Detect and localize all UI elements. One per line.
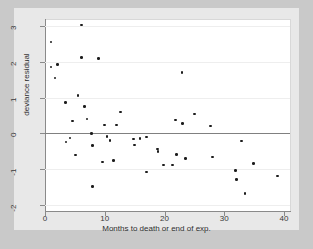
scatter-point	[235, 178, 238, 181]
scatter-point	[162, 164, 165, 167]
scatter-point	[132, 138, 135, 141]
scatter-point	[119, 111, 122, 114]
scatter-point	[175, 153, 178, 156]
scatter-plot-figure: 3210-1-2 010203040 deviance residual Mon…	[14, 8, 299, 230]
x-tick-label: 20	[155, 214, 175, 223]
y-axis-tick	[40, 98, 45, 99]
plot-area	[45, 19, 291, 211]
scatter-point	[145, 171, 148, 174]
x-axis-title: Months to death or end of exp.	[14, 224, 299, 233]
gridline	[45, 169, 290, 170]
y-tick-label: 3	[9, 26, 18, 42]
scatter-point	[64, 101, 67, 104]
scatter-point	[174, 119, 177, 122]
scatter-point	[234, 169, 237, 172]
scatter-point	[181, 122, 184, 125]
y-tick-label: 2	[9, 61, 18, 77]
scatter-point	[193, 113, 196, 116]
gridline	[45, 205, 290, 206]
y-axis-tick	[40, 26, 45, 27]
x-tick-label: 30	[214, 214, 234, 223]
scatter-point	[97, 57, 100, 60]
y-axis-tick	[40, 205, 45, 206]
y-axis-title: deviance residual	[22, 45, 31, 125]
scatter-point	[80, 56, 83, 59]
y-tick-label: 0	[9, 133, 18, 149]
scatter-point	[157, 150, 160, 153]
scatter-point	[252, 162, 255, 165]
scatter-point	[83, 105, 86, 108]
y-axis-tick	[40, 169, 45, 170]
gridline	[45, 26, 290, 27]
x-tick-label: 10	[95, 214, 115, 223]
scatter-point	[91, 185, 94, 188]
gridline	[45, 98, 290, 99]
scatter-point	[56, 63, 59, 66]
scatter-point	[139, 137, 142, 140]
scatter-point	[171, 164, 174, 167]
y-tick-label: -1	[9, 168, 18, 184]
y-tick-label: 1	[9, 97, 18, 113]
x-tick-label: 0	[35, 214, 55, 223]
scatter-point	[91, 144, 94, 147]
y-axis-tick	[40, 62, 45, 63]
scatter-point	[90, 132, 93, 135]
zero-reference-line	[45, 133, 290, 134]
x-axis-line	[45, 211, 291, 212]
y-axis-line	[45, 19, 46, 211]
scatter-point	[112, 159, 115, 162]
scatter-point	[181, 71, 184, 74]
gridline	[45, 62, 290, 63]
x-tick-label: 40	[274, 214, 294, 223]
scatter-point	[184, 157, 187, 160]
y-axis-tick	[40, 133, 45, 134]
y-tick-label: -2	[9, 204, 18, 220]
